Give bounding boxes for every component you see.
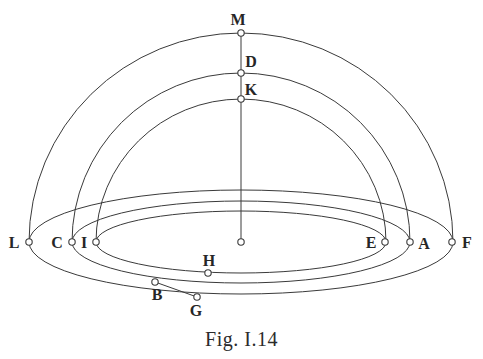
- point-label-a: A: [418, 236, 430, 252]
- point-marker-d: [238, 70, 244, 76]
- point-marker-b: [152, 279, 158, 285]
- point-marker-i: [93, 239, 99, 245]
- axis-and-connector-group: [155, 33, 241, 297]
- point-marker-f: [449, 239, 455, 245]
- point-marker-k: [238, 96, 244, 102]
- point-label-e: E: [366, 235, 377, 251]
- point-marker-l: [26, 239, 32, 245]
- point-marker-m: [238, 30, 244, 36]
- geometric-figure-svg: [0, 0, 483, 359]
- point-label-d: D: [245, 54, 257, 70]
- point-marker-c: [69, 239, 75, 245]
- point-label-c: C: [51, 235, 63, 251]
- point-marker-a: [407, 239, 413, 245]
- point-marker-h: [205, 270, 211, 276]
- point-label-l: L: [9, 235, 20, 251]
- point-marker-g: [194, 294, 200, 300]
- point-marker-e: [382, 239, 388, 245]
- point-label-k: K: [245, 82, 257, 98]
- point-label-m: M: [230, 12, 245, 28]
- point-marker-o: [238, 239, 244, 245]
- point-label-h: H: [203, 253, 215, 269]
- point-label-g: G: [190, 303, 202, 319]
- point-label-i: I: [81, 235, 87, 251]
- figure-container: MDKLCIEAFHBG Fig. I.14: [0, 0, 483, 359]
- point-label-b: B: [152, 287, 163, 303]
- point-label-f: F: [462, 235, 472, 251]
- figure-caption: Fig. I.14: [0, 328, 483, 351]
